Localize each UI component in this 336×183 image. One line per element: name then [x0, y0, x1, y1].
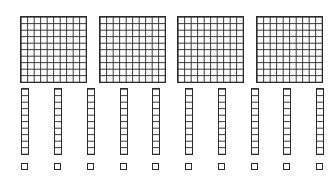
ten-rod [87, 88, 95, 155]
hundred-flat [177, 16, 244, 83]
hundred-flat [20, 16, 87, 83]
unit-cube [21, 163, 28, 170]
ten-rod [316, 88, 324, 155]
ten-rod [120, 88, 128, 155]
unit-cube [251, 163, 258, 170]
ten-rod [152, 88, 160, 155]
hundreds-label: hundreds flats [0, 0, 1, 1]
ten-rod [21, 88, 29, 155]
hundred-flat [99, 16, 166, 83]
unit-cube [87, 163, 94, 170]
unit-cube [283, 163, 290, 170]
unit-cube [218, 163, 225, 170]
base-ten-blocks-diagram: hundreds flats 4 tens rods 10 unit cubes… [0, 0, 336, 183]
ones-label: unit cubes [0, 0, 1, 1]
unit-cube [316, 163, 323, 170]
ten-rod [283, 88, 291, 155]
ten-rod [251, 88, 259, 155]
tens-label: tens rods [0, 0, 1, 1]
unit-cube [54, 163, 61, 170]
hundred-flat [256, 16, 323, 83]
unit-cube [120, 163, 127, 170]
ten-rod [54, 88, 62, 155]
unit-cube [152, 163, 159, 170]
unit-cube [185, 163, 192, 170]
ones-count: 10 [0, 0, 1, 1]
ten-rod [185, 88, 193, 155]
tens-count: 10 [0, 0, 1, 1]
ten-rod [218, 88, 226, 155]
hundreds-count: 4 [0, 0, 1, 1]
